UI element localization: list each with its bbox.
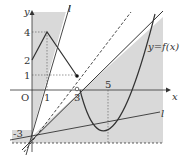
x-tick-3: 3: [74, 92, 80, 103]
x-tick-5: 5: [105, 79, 111, 90]
y-tick-neg3: -3: [13, 128, 23, 139]
line-label-top: l: [68, 3, 71, 14]
graph-diagram: y x O 1 3 5 4 2 1 -3 y=f(x) l l: [0, 0, 189, 160]
curve-label: y=f(x): [147, 41, 179, 52]
y-axis-label: y: [23, 6, 30, 17]
line-label-right: l: [161, 108, 164, 119]
open-point: [75, 87, 79, 91]
filled-point: [75, 74, 79, 78]
x-tick-1: 1: [44, 92, 50, 103]
y-tick-1: 1: [24, 70, 30, 81]
origin-label: O: [21, 92, 29, 103]
x-axis-label: x: [172, 91, 178, 102]
x-axis-arrow-icon: [166, 88, 171, 93]
y-tick-4: 4: [24, 27, 30, 38]
y-tick-2: 2: [24, 55, 30, 66]
